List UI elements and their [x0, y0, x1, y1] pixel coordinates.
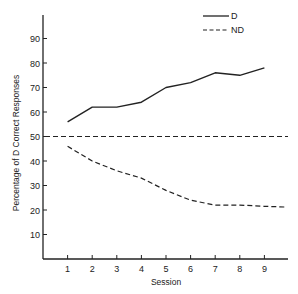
y-tick-label: 80: [30, 59, 40, 69]
y-tick-label: 20: [30, 206, 40, 216]
x-tick-label: 8: [237, 264, 242, 274]
x-tick-label: 4: [139, 264, 144, 274]
x-tick-label: 5: [163, 264, 168, 274]
series-line-nd: [68, 146, 287, 207]
y-tick-label: 40: [30, 157, 40, 167]
y-axis-label: Percentage of D Correct Responses: [11, 75, 21, 212]
x-tick-label: 6: [188, 264, 193, 274]
y-tick-label: 90: [30, 34, 40, 44]
x-tick-label: 2: [90, 264, 95, 274]
legend: D ND: [203, 11, 244, 35]
x-tick-label: 1: [65, 264, 70, 274]
legend-label-d: D: [231, 11, 238, 21]
legend-label-nd: ND: [231, 25, 244, 35]
x-tick-label: 9: [262, 264, 267, 274]
y-tick-label: 30: [30, 181, 40, 191]
y-tick-label: 50: [30, 132, 40, 142]
series-lines: [68, 68, 287, 207]
line-chart: 102030405060708090 123456789 Session Per…: [0, 0, 298, 294]
x-tick-label: 3: [114, 264, 119, 274]
x-axis-label: Session: [151, 277, 182, 287]
y-ticks: 102030405060708090: [30, 34, 47, 240]
y-tick-label: 10: [30, 230, 40, 240]
x-ticks: 123456789: [65, 255, 267, 274]
series-line-d: [68, 68, 265, 122]
y-tick-label: 60: [30, 108, 40, 118]
y-tick-label: 70: [30, 83, 40, 93]
x-tick-label: 7: [213, 264, 218, 274]
